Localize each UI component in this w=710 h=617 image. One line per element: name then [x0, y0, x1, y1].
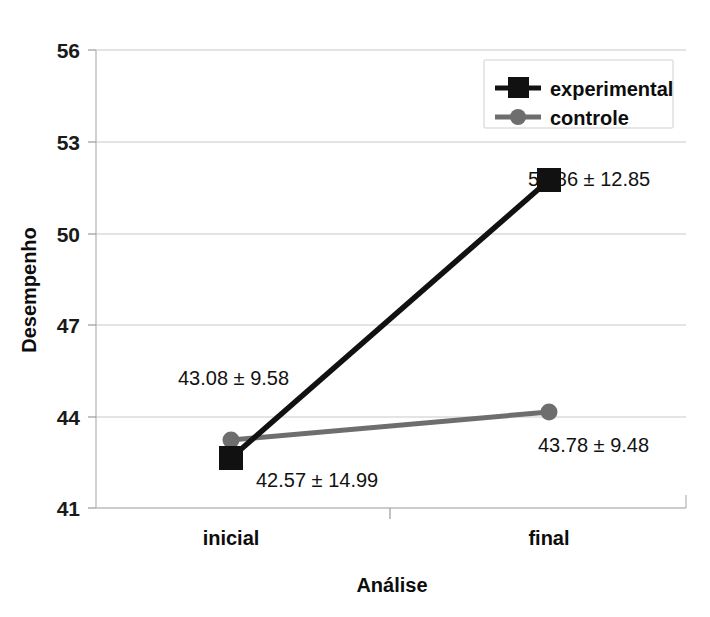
series-experimental-point-inicial	[219, 446, 243, 470]
series-controle-point-final	[541, 404, 558, 421]
data-label-controle-inicial: 43.08 ± 9.58	[178, 367, 289, 389]
y-tick-label-50: 50	[57, 223, 80, 246]
x-tick-label-final: final	[528, 527, 569, 549]
y-tick-label-41: 41	[57, 497, 81, 520]
legend-item-experimental[interactable]: experimental	[495, 77, 673, 100]
x-tick-label-inicial: inicial	[203, 527, 260, 549]
line-chart: 56 53 50 47 44 41 Desempenho inicial fin…	[0, 0, 710, 617]
series-controle-point-inicial	[223, 432, 240, 449]
legend: experimental controle	[484, 60, 673, 129]
data-label-experimental-inicial: 42.57 ± 14.99	[256, 469, 378, 491]
legend-label-experimental: experimental	[550, 78, 673, 100]
y-tick-label-53: 53	[57, 131, 80, 154]
data-label-controle-final: 43.78 ± 9.48	[538, 434, 649, 456]
legend-marker-circle-icon	[510, 109, 526, 125]
y-tick-label-44: 44	[57, 406, 81, 429]
x-axis-title: Análise	[356, 574, 427, 596]
y-axis-title: Desempenho	[18, 227, 40, 353]
legend-label-controle: controle	[550, 107, 629, 129]
legend-marker-square-icon	[508, 77, 529, 98]
y-axis-tickmarks	[88, 50, 96, 508]
data-label-experimental-final: 51.86 ± 12.85	[528, 168, 650, 190]
chart-container: 56 53 50 47 44 41 Desempenho inicial fin…	[0, 0, 710, 617]
y-tick-label-47: 47	[57, 314, 80, 337]
y-tick-label-56: 56	[57, 39, 80, 62]
